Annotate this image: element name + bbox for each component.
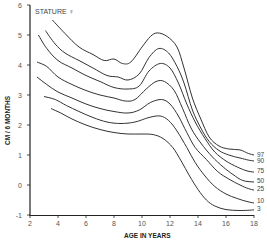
x-tick-label: 12 <box>166 220 174 227</box>
x-tick-label: 6 <box>84 220 88 227</box>
x-tick-label: 10 <box>138 220 146 227</box>
percentile-labels: 9790755025103 <box>257 151 265 212</box>
percentile-curve-90 <box>45 31 254 162</box>
x-tick-label: 16 <box>222 220 230 227</box>
y-tick-label: 5 <box>18 32 22 39</box>
y-ticks: -10123456 <box>16 2 30 219</box>
percentile-label-10: 10 <box>257 197 265 204</box>
y-tick-label: 4 <box>18 62 22 69</box>
y-tick-label: 2 <box>18 122 22 129</box>
percentile-label-50: 50 <box>257 177 265 184</box>
x-tick-label: 2 <box>28 220 32 227</box>
y-tick-label: 3 <box>18 92 22 99</box>
percentile-label-3: 3 <box>257 205 261 212</box>
percentile-curves <box>37 20 254 211</box>
y-axis-title: CM / 6 MONTHS <box>4 95 11 145</box>
plot-area: -10123456 24681012141618 9790755025103 <box>16 2 265 228</box>
growth-velocity-chart: -10123456 24681012141618 9790755025103 S… <box>0 0 267 241</box>
percentile-curve-50 <box>37 62 254 182</box>
x-tick-label: 4 <box>56 220 60 227</box>
x-ticks: 24681012141618 <box>28 215 258 227</box>
x-axis-title: AGE IN YEARS <box>124 232 171 239</box>
percentile-label-25: 25 <box>257 185 265 192</box>
percentile-label-90: 90 <box>257 157 265 164</box>
y-tick-label: 1 <box>18 152 22 159</box>
stature-annotation: STATURE ♀ <box>35 8 74 15</box>
x-tick-label: 14 <box>194 220 202 227</box>
y-tick-label: -1 <box>16 212 22 219</box>
y-tick-label: 0 <box>18 182 22 189</box>
y-tick-label: 6 <box>18 2 22 9</box>
x-tick-label: 8 <box>112 220 116 227</box>
percentile-curve-10 <box>44 97 254 204</box>
x-tick-label: 18 <box>250 220 258 227</box>
percentile-label-75: 75 <box>257 167 265 174</box>
